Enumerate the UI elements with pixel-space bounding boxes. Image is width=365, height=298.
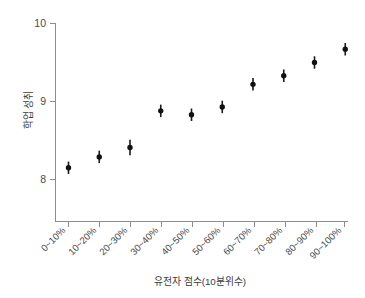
data-point [281,73,286,78]
data-point [220,104,225,109]
data-point [97,154,102,159]
chart-container: 10 9 8 학업 성취 0~10% 10~20% 20~30% 30~ [0,0,365,298]
data-point [158,108,163,113]
data-point [189,112,194,117]
data-point [312,60,317,65]
data-point [343,47,348,52]
y-tick-label-9: 9 [40,95,46,107]
y-tick-label-8: 8 [40,173,46,185]
data-point [127,145,132,150]
y-axis-title: 학업 성취 [22,91,34,130]
y-tick-label-10: 10 [34,17,46,29]
x-axis-title: 유전자 점수(10분위수) [154,275,246,287]
academic-achievement-by-genetic-score-decile-chart: 10 9 8 학업 성취 0~10% 10~20% 20~30% 30~ [0,0,365,298]
data-point [250,82,255,87]
data-point [66,165,71,170]
